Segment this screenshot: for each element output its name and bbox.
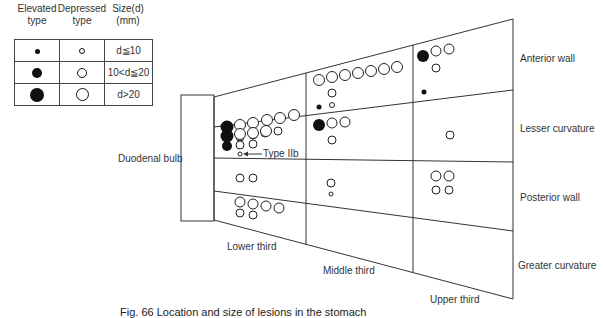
depressed-lesion-icon — [340, 70, 351, 81]
depressed-lesion-icon — [432, 64, 440, 72]
depressed-lesion-icon — [235, 197, 245, 207]
type-iib-arrowhead-icon — [243, 152, 248, 157]
depressed-lesion-icon — [328, 89, 336, 97]
depressed-lesion-icon — [248, 199, 258, 209]
depressed-lesion-icon — [262, 115, 273, 126]
top-edge — [214, 19, 513, 97]
posterior-greater-boundary — [214, 191, 513, 231]
depressed-lesion-icon — [444, 171, 454, 181]
depressed-lesion-icon — [327, 72, 338, 83]
anterior-lesser-boundary — [214, 90, 513, 127]
lesion-markers — [221, 44, 455, 219]
elevated-lesion-icon — [417, 50, 429, 62]
depressed-lesion-icon — [445, 186, 453, 194]
depressed-lesion-icon — [235, 129, 246, 140]
depressed-lesion-icon — [327, 118, 337, 128]
depressed-lesion-icon — [248, 118, 259, 129]
lesser-posterior-boundary — [214, 158, 513, 162]
elevated-lesion-icon — [422, 90, 427, 95]
depressed-lesion-icon — [236, 209, 244, 217]
type-iib-label: Type IIb — [263, 148, 299, 159]
lesser-curvature-label: Lesser curvature — [520, 123, 594, 134]
depressed-lesion-icon — [249, 211, 257, 219]
depressed-lesion-icon — [236, 141, 244, 149]
bottom-edge — [214, 220, 513, 299]
depressed-lesion-icon — [432, 186, 440, 194]
elevated-lesion-icon — [313, 119, 325, 131]
middle-third-label: Middle third — [323, 265, 375, 276]
depressed-lesion-icon — [431, 171, 441, 181]
elevated-lesion-icon — [221, 130, 234, 143]
depressed-lesion-icon — [392, 62, 403, 73]
depressed-lesion-icon — [249, 140, 257, 148]
duodenal-bulb-label: Duodenal bulb — [118, 153, 183, 164]
depressed-lesion-icon — [274, 203, 284, 213]
depressed-lesion-icon — [236, 174, 244, 182]
depressed-lesion-icon — [379, 64, 390, 75]
depressed-lesion-icon — [353, 68, 364, 79]
stomach-outline — [181, 19, 513, 299]
elevated-lesion-icon — [222, 141, 232, 151]
depressed-lesion-icon — [238, 152, 242, 156]
depressed-lesion-icon — [366, 66, 377, 77]
depressed-lesion-icon — [249, 174, 257, 182]
depressed-lesion-icon — [444, 44, 454, 54]
lower-third-label: Lower third — [227, 241, 276, 252]
depressed-lesion-icon — [329, 192, 333, 196]
depressed-lesion-icon — [314, 75, 325, 86]
greater-curvature-label: Greater curvature — [518, 260, 596, 271]
upper-third-label: Upper third — [430, 294, 479, 305]
depressed-lesion-icon — [248, 128, 259, 139]
depressed-lesion-icon — [328, 136, 336, 144]
depressed-lesion-icon — [340, 117, 350, 127]
depressed-lesion-icon — [289, 110, 300, 121]
depressed-lesion-icon — [327, 179, 335, 187]
depressed-lesion-icon — [274, 127, 282, 135]
depressed-lesion-icon — [275, 113, 286, 124]
figure-caption: Fig. 66 Location and size of lesions in … — [120, 306, 366, 318]
depressed-lesion-icon — [330, 103, 335, 108]
depressed-lesion-icon — [261, 201, 271, 211]
elevated-lesion-icon — [317, 105, 322, 110]
depressed-lesion-icon — [446, 131, 454, 139]
depressed-lesion-icon — [431, 46, 441, 56]
anterior-wall-label: Anterior wall — [520, 53, 575, 64]
depressed-lesion-icon — [261, 126, 272, 137]
posterior-wall-label: Posterior wall — [520, 192, 580, 203]
duodenal-bulb-box — [181, 95, 214, 221]
